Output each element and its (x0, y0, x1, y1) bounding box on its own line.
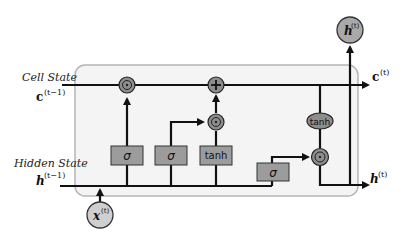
hidden-output-node: h (t) (337, 17, 363, 43)
forget-multiply-op (119, 77, 135, 93)
output-gate-label: σ (269, 166, 277, 180)
output-gate: σ (257, 163, 289, 181)
lstm-diagram: σ σ tanh σ tanh h (t) (0, 0, 402, 243)
c-out-label: c (372, 70, 379, 84)
input-gate-label: σ (167, 149, 175, 163)
input-node: x (t) (87, 202, 113, 228)
x-label: x (92, 209, 101, 223)
cell-tanh-label: tanh (310, 117, 330, 127)
x-sup: (t) (101, 207, 110, 215)
candidate-gate-label: tanh (205, 150, 228, 161)
c-out-sup: (t) (380, 68, 389, 77)
c-prev-sup: (t−1) (44, 88, 65, 97)
forget-gate-label: σ (123, 149, 131, 163)
add-op (208, 77, 224, 93)
cell-state-label: Cell State (22, 71, 77, 84)
candidate-gate: tanh (200, 146, 232, 165)
c-prev-label: c (36, 90, 43, 104)
h-out-sup: (t) (378, 170, 387, 179)
forget-gate: σ (111, 146, 143, 165)
input-multiply-op (208, 114, 224, 130)
output-multiply-op (312, 149, 329, 166)
h-prev-sup: (t−1) (44, 171, 65, 180)
h-top-sup: (t) (351, 22, 360, 30)
input-gate: σ (155, 146, 187, 165)
cell-tanh-op: tanh (307, 113, 333, 129)
hidden-state-label: Hidden State (13, 157, 88, 170)
